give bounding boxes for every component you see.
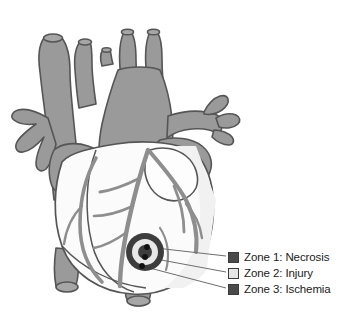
legend-row-zone-3: Zone 3: Ischemia — [228, 281, 350, 297]
pulmonary-branch-upper — [204, 96, 228, 115]
zone-2-label: Zone 2: Injury — [244, 267, 313, 280]
small-stub-opening — [102, 48, 111, 52]
descending-aorta-opening — [56, 282, 78, 292]
zone-1-swatch — [228, 252, 239, 263]
anchor-dot-zone-1 — [144, 244, 150, 250]
anchor-dot-zone-3 — [139, 263, 145, 269]
zone-3-swatch — [228, 284, 239, 295]
pulmonary-branch-mid — [216, 114, 240, 128]
legend-row-zone-2: Zone 2: Injury — [228, 265, 350, 281]
carotid-opening — [122, 29, 134, 35]
brachiocephalic-opening — [79, 39, 92, 45]
legend-row-zone-1: Zone 1: Necrosis — [228, 249, 350, 265]
svc-opening — [44, 34, 63, 42]
zone-2-swatch — [228, 268, 239, 279]
ivc-opening — [127, 296, 150, 306]
subclavian-opening — [148, 29, 160, 35]
bullseye-infarct-marker — [126, 233, 164, 271]
pulmonary-branch-lower — [212, 130, 233, 145]
anchor-dot-zone-2 — [142, 254, 148, 260]
zone-3-label: Zone 3: Ischemia — [244, 283, 331, 296]
zones-legend: Zone 1: Necrosis Zone 2: Injury Zone 3: … — [228, 249, 350, 297]
zone-1-label: Zone 1: Necrosis — [244, 251, 329, 264]
brachiocephalic-vein-branch — [75, 42, 96, 108]
